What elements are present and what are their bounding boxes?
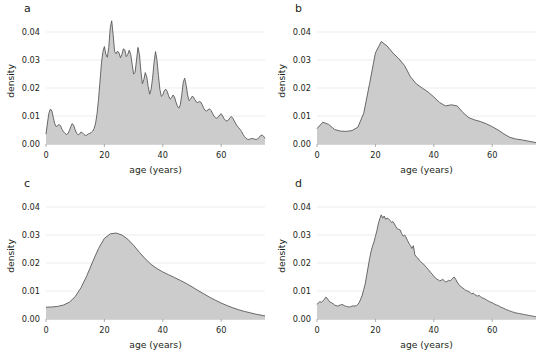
y-axis-title: density <box>276 239 287 273</box>
x-tick-label: 0 <box>314 325 319 335</box>
x-tick-label: 20 <box>370 325 380 335</box>
y-axis-title: density <box>276 64 287 98</box>
x-tick-label: 0 <box>43 150 48 160</box>
x-tick-label: 20 <box>99 325 109 335</box>
y-tick-label: 0.02 <box>22 83 40 93</box>
x-tick-label: 20 <box>99 150 109 160</box>
y-tick-label: 0.04 <box>293 202 311 212</box>
density-area <box>46 233 265 319</box>
y-tick-label: 0.04 <box>293 27 311 37</box>
panel-a-plot: 0.000.010.020.030.040204060age (years)de… <box>0 0 270 175</box>
x-tick-label: 60 <box>216 150 226 160</box>
x-tick-label: 40 <box>158 150 168 160</box>
density-area <box>317 42 536 144</box>
y-tick-label: 0.00 <box>293 139 311 149</box>
y-tick-label: 0.03 <box>22 230 40 240</box>
panel-c: c 0.000.010.020.030.040204060age (years)… <box>0 175 270 350</box>
y-tick-label: 0.01 <box>22 286 40 296</box>
y-tick-label: 0.01 <box>293 286 311 296</box>
x-tick-label: 20 <box>370 150 380 160</box>
x-axis-title: age (years) <box>400 164 453 175</box>
y-tick-label: 0.03 <box>22 55 40 65</box>
panel-a: a 0.000.010.020.030.040204060age (years)… <box>0 0 270 175</box>
panel-d: d 0.000.010.020.030.040204060age (years)… <box>271 175 541 350</box>
x-axis-title: age (years) <box>129 339 182 350</box>
x-axis-title: age (years) <box>129 164 182 175</box>
x-tick-label: 0 <box>314 150 319 160</box>
x-tick-label: 40 <box>429 150 439 160</box>
x-tick-label: 60 <box>487 150 497 160</box>
y-tick-label: 0.02 <box>293 258 311 268</box>
y-axis-title: density <box>5 239 16 273</box>
y-tick-label: 0.02 <box>22 258 40 268</box>
density-area <box>46 21 265 144</box>
panel-d-plot: 0.000.010.020.030.040204060age (years)de… <box>271 175 541 350</box>
y-tick-label: 0.02 <box>293 83 311 93</box>
panel-c-plot: 0.000.010.020.030.040204060age (years)de… <box>0 175 270 350</box>
y-tick-label: 0.01 <box>293 111 311 121</box>
x-tick-label: 40 <box>429 325 439 335</box>
y-tick-label: 0.04 <box>22 27 40 37</box>
y-tick-label: 0.03 <box>293 55 311 65</box>
y-tick-label: 0.00 <box>22 139 40 149</box>
y-tick-label: 0.00 <box>293 314 311 324</box>
panel-b-plot: 0.000.010.020.030.040204060age (years)de… <box>271 0 541 175</box>
x-tick-label: 60 <box>487 325 497 335</box>
x-tick-label: 40 <box>158 325 168 335</box>
y-axis-title: density <box>5 64 16 98</box>
y-tick-label: 0.04 <box>22 202 40 212</box>
x-axis-title: age (years) <box>400 339 453 350</box>
density-figure: a 0.000.010.020.030.040204060age (years)… <box>0 0 541 350</box>
y-tick-label: 0.00 <box>22 314 40 324</box>
x-tick-label: 60 <box>216 325 226 335</box>
y-tick-label: 0.01 <box>22 111 40 121</box>
panel-b: b 0.000.010.020.030.040204060age (years)… <box>271 0 541 175</box>
y-tick-label: 0.03 <box>293 230 311 240</box>
x-tick-label: 0 <box>43 325 48 335</box>
